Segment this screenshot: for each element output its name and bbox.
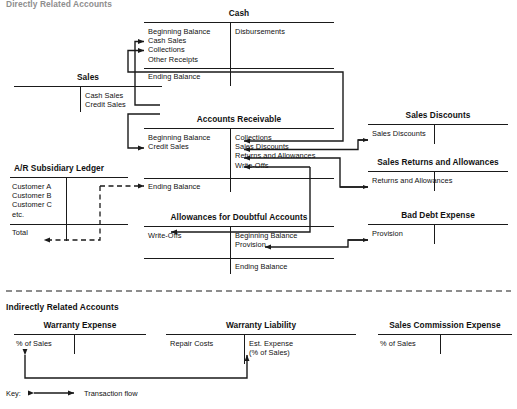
entry-ending-balance: Ending Balance [148,182,200,191]
rule-top [166,334,356,335]
t-account-warranty-expense: Warranty Expense % of Sales [14,320,146,354]
entry-credit: Est. Expense [249,339,293,348]
entry-debit: Customer C [12,200,52,209]
t-stem [66,177,67,224]
t-stem-lower [230,258,231,274]
entry-credit: Credit Sales [85,100,126,109]
t-stem [440,334,441,354]
t-account-sales-commission-expense: Sales Commission Expense % of Sales [378,320,512,354]
rule-top [378,334,512,335]
t-stem [230,22,231,68]
t-stem [74,334,75,354]
t-stem-lower [230,68,231,86]
entry-debit: Write-Offs [148,231,182,240]
entry-credit: Returns and Allowances [235,151,315,160]
rule-top [144,22,334,23]
rule-top [144,226,334,227]
entry-credit: Sales Discounts [235,142,289,151]
rule-top [368,124,508,125]
rule-top [368,224,508,225]
entry-credit: Disbursements [235,27,285,36]
account-title-accounts-receivable: Accounts Receivable [144,114,334,124]
section-title-directly-related: Directly Related Accounts [6,0,112,9]
t-account-warranty-liability: Warranty Liability Repair Costs Est. Exp… [166,320,356,364]
entry-ending-balance: Ending Balance [235,262,287,271]
account-title-sales-discounts: Sales Discounts [368,110,508,120]
rule-top [14,334,146,335]
entry-debit: Returns and Allowances [372,176,452,185]
entry-debit: Credit Sales [148,142,189,151]
rule-mid [144,258,334,259]
rule-top [10,177,128,178]
t-stem [230,226,231,258]
t-account-sales: Sales Cash Sales Credit Sales [14,72,162,112]
account-title-bad-debt-expense: Bad Debt Expense [368,210,508,220]
t-stem-lower [230,178,231,192]
t-stem [230,128,231,178]
section-title-indirectly-related: Indirectly Related Accounts [6,302,119,312]
entry-debit: Repair Costs [170,339,213,348]
entry-credit: Cash Sales [85,91,123,100]
account-title-cash: Cash [144,8,334,18]
account-title-sales: Sales [14,72,162,82]
t-stem [434,124,435,144]
rule-mid [10,224,128,225]
entry-debit: % of Sales [380,339,416,348]
rule-top [14,86,162,87]
t-account-ar-subsidiary-ledger: A/R Subsidiary Ledger Customer A Custome… [10,163,128,241]
entry-debit: Other Receipts [148,55,198,64]
rule-top [144,128,334,129]
account-title-warranty-liability: Warranty Liability [166,320,356,330]
rule-mid [144,178,334,179]
entry-debit: Sales Discounts [372,129,426,138]
entry-debit: Provision [372,229,403,238]
rule-mid [144,68,334,69]
entry-debit: Customer B [12,191,52,200]
entry-credit: Beginning Balance [235,231,298,240]
entry-debit: Customer A [12,182,51,191]
t-account-bad-debt-expense: Bad Debt Expense Provision [368,210,508,244]
entry-credit: Collections [235,133,272,142]
entry-debit: Collections [148,45,185,54]
t-account-sales-returns-allowances: Sales Returns and Allowances Returns and… [368,157,508,191]
t-stem-lower [66,224,67,241]
key-label: Key: [6,389,21,398]
t-account-allowances-doubtful: Allowances for Doubtful Accounts Write-O… [144,212,334,274]
account-title-warranty-expense: Warranty Expense [14,320,146,330]
account-title-allowances-doubtful: Allowances for Doubtful Accounts [144,212,334,222]
entry-debit: etc. [12,210,24,219]
rule-top [368,171,508,172]
entry-debit: Beginning Balance [148,27,211,36]
entry-credit: Write-Offs [235,161,269,170]
t-account-accounts-receivable: Accounts Receivable Beginning Balance Cr… [144,114,334,192]
t-account-cash: Cash Beginning Balance Cash Sales Collec… [144,8,334,86]
entry-debit: % of Sales [16,339,52,348]
entry-credit: Provision [235,240,266,249]
account-title-ar-subsidiary-ledger: A/R Subsidiary Ledger [14,163,132,173]
key-legend-transaction-flow: Transaction flow [84,389,138,398]
t-account-sales-discounts: Sales Discounts Sales Discounts [368,110,508,144]
t-stem [434,224,435,244]
entry-total: Total [12,228,28,237]
entry-credit-note: (% of Sales) [249,348,290,357]
diagram-canvas: Directly Related Accounts Indirectly Rel… [0,0,517,409]
account-title-sales-commission-expense: Sales Commission Expense [378,320,512,330]
t-stem [80,86,81,112]
entry-debit: Beginning Balance [148,133,211,142]
t-stem [244,334,245,364]
entry-debit: Cash Sales [148,36,186,45]
account-title-sales-returns-allowances: Sales Returns and Allowances [368,157,508,167]
